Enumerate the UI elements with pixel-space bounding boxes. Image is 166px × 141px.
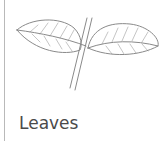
leaves-illustration-icon <box>10 8 160 93</box>
card-caption: Leaves <box>19 113 78 133</box>
card-left-border <box>4 0 5 141</box>
leaves-card[interactable]: Leaves <box>0 0 166 141</box>
